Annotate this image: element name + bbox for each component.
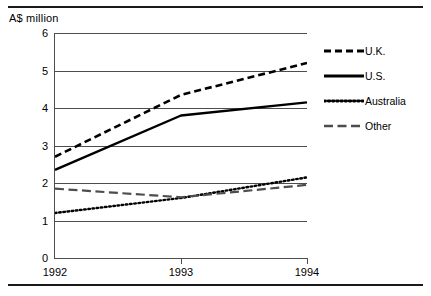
x-tick-label-1994: 1994 <box>277 266 337 278</box>
y-axis-unit-label: A$ million <box>9 12 59 24</box>
chart-figure: A$ million 6543210 U.K.U.S.AustraliaOthe… <box>0 0 431 296</box>
dashed-line-swatch <box>324 45 364 57</box>
x-tick-label-1992: 1992 <box>25 266 85 278</box>
dotted-line-swatch <box>324 95 364 107</box>
series-line-u-k <box>55 63 307 157</box>
legend-item-u-k[interactable]: U.K. <box>324 38 428 63</box>
y-tick-label-2: 2 <box>28 178 48 189</box>
y-axis-tick-labels: 6543210 <box>26 33 48 258</box>
y-tick-label-4: 4 <box>28 103 48 114</box>
series-lines-group <box>55 33 307 258</box>
y-tick-label-5: 5 <box>28 66 48 77</box>
y-tick-label-0: 0 <box>28 253 48 264</box>
top-divider-rule <box>8 6 423 8</box>
legend-item-u-s[interactable]: U.S. <box>324 63 428 88</box>
series-line-u-s <box>55 102 307 170</box>
legend-item-australia[interactable]: Australia <box>324 88 428 113</box>
long-dash-line-swatch <box>324 120 364 132</box>
legend-label: U.K. <box>365 45 385 57</box>
series-line-other <box>55 185 307 197</box>
x-tick-mark-1993 <box>181 258 182 264</box>
x-tick-label-1993: 1993 <box>151 266 211 278</box>
chart-legend: U.K.U.S.AustraliaOther <box>324 38 428 138</box>
legend-label: U.S. <box>365 70 385 82</box>
y-tick-label-1: 1 <box>28 216 48 227</box>
legend-label: Other <box>365 120 391 132</box>
y-tick-label-6: 6 <box>28 28 48 39</box>
y-tick-label-3: 3 <box>28 141 48 152</box>
series-line-australia <box>55 177 307 213</box>
x-tick-mark-1994 <box>307 258 308 264</box>
legend-item-other[interactable]: Other <box>324 113 428 138</box>
bottom-divider-rule <box>8 284 423 286</box>
legend-label: Australia <box>365 95 406 107</box>
solid-line-swatch <box>324 70 364 82</box>
